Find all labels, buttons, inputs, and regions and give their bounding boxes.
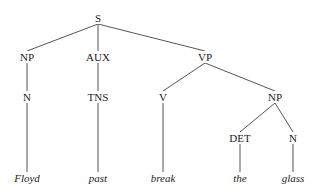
tree-edge	[27, 24, 98, 51]
leaf-word: past	[88, 172, 108, 184]
tree-node-label: VP	[197, 51, 213, 63]
tree-node-label: V	[158, 91, 168, 103]
tree-node-label: AUX	[85, 51, 111, 63]
tree-edge	[205, 63, 275, 91]
tree-edge	[275, 103, 293, 132]
leaf-word: glass	[281, 172, 306, 184]
tree-edge	[240, 103, 275, 132]
tree-edge	[98, 24, 205, 51]
tree-node-label: NP	[267, 91, 283, 103]
leaf-word: break	[150, 172, 177, 184]
leaf-word: the	[232, 172, 247, 184]
tree-node-label: NP	[19, 51, 35, 63]
tree-edge	[163, 63, 205, 91]
tree-node-label: S	[94, 12, 102, 24]
tree-node-label: TNS	[87, 91, 110, 103]
tree-node-label: N	[288, 132, 298, 144]
tree-node-label: DET	[228, 132, 251, 144]
leaf-word: Floyd	[13, 172, 41, 184]
tree-node-label: N	[22, 91, 32, 103]
